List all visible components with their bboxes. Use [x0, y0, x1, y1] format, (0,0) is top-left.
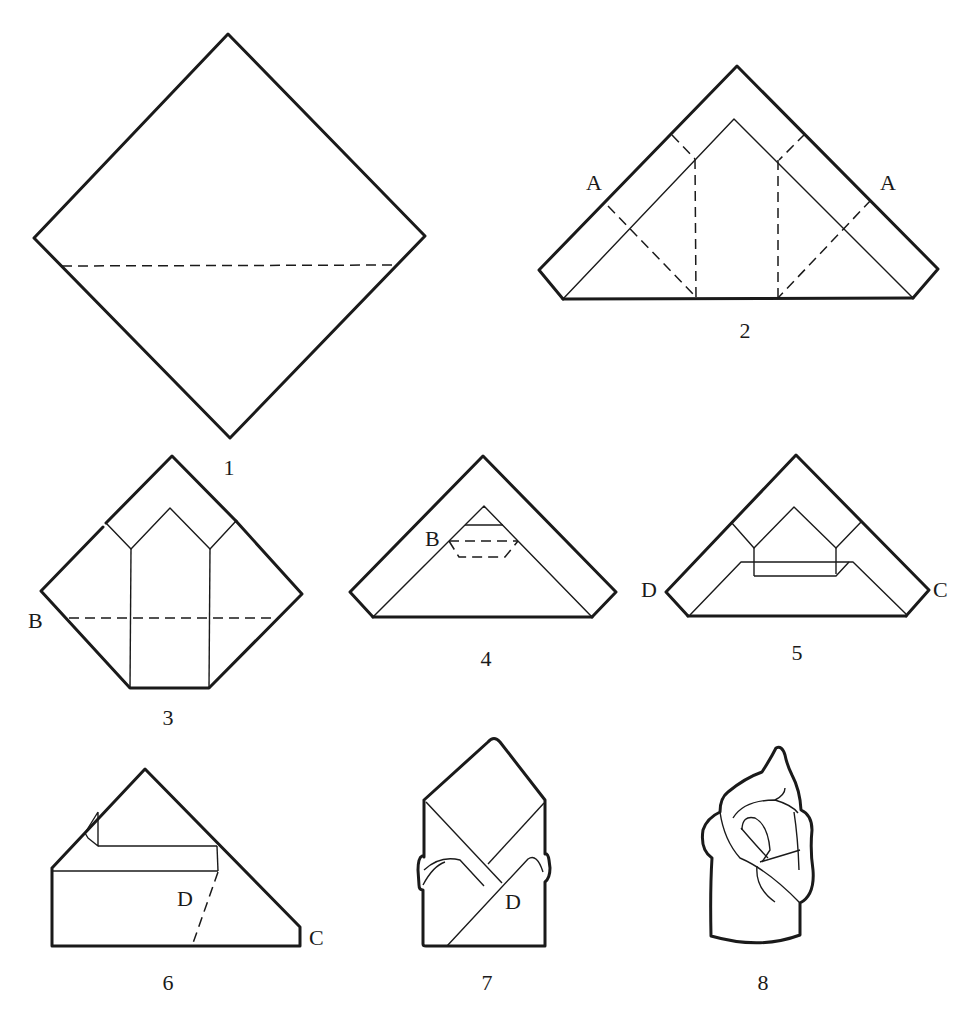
step-4-number: 4 — [481, 646, 492, 671]
label-c: C — [933, 577, 948, 602]
step-1-figure: 1 — [34, 34, 425, 480]
step-7-figure: D 7 — [418, 739, 550, 996]
label-d: D — [641, 577, 657, 602]
step-1-number: 1 — [224, 455, 235, 480]
label-b: B — [28, 608, 43, 633]
label-a-left: A — [586, 170, 602, 195]
step-6-number: 6 — [163, 970, 174, 995]
step-5-number: 5 — [792, 640, 803, 665]
step-7-number: 7 — [482, 970, 493, 995]
step-3-number: 3 — [163, 705, 174, 730]
step-3-figure: B 3 — [28, 456, 302, 730]
step-6-figure: D C 6 — [52, 769, 324, 995]
step-5-figure: D C 5 — [641, 455, 948, 665]
label-c-step6: C — [309, 925, 324, 950]
label-d-step6: D — [177, 886, 193, 911]
step-8-number: 8 — [758, 970, 769, 995]
label-b-step4: B — [425, 526, 440, 551]
folding-diagram: 1 A A 2 B 3 B 4 — [0, 0, 974, 1032]
label-a-right: A — [880, 170, 896, 195]
step-4-figure: B 4 — [350, 456, 616, 671]
step-8-figure: 8 — [702, 747, 813, 995]
step-2-figure: A A 2 — [539, 66, 938, 343]
step-2-number: 2 — [740, 318, 751, 343]
label-d-step7: D — [505, 889, 521, 914]
